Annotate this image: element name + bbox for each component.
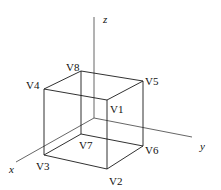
vertex-label-v7: V7 [79, 139, 93, 151]
z-axis-label: z [102, 13, 108, 25]
vertex-label-v4: V4 [26, 79, 40, 91]
cube-diagram: z y x V8 V4 V5 V1 V7 V6 V3 V2 [0, 0, 221, 190]
edge-v6-v2 [107, 146, 143, 169]
edge-v1-v4 [44, 89, 107, 100]
vertex-label-v2: V2 [109, 175, 122, 187]
edge-v4-v8 [44, 71, 81, 89]
edge-v5-v1 [107, 81, 143, 100]
vertex-label-v1: V1 [110, 103, 123, 115]
edge-v8-v5 [81, 71, 143, 81]
edge-v3-v7 [44, 134, 81, 155]
y-axis-label: y [199, 140, 205, 152]
vertex-label-v3: V3 [36, 160, 50, 172]
vertex-label-v8: V8 [66, 61, 80, 73]
vertex-label-v6: V6 [145, 144, 159, 156]
x-axis-label: x [8, 163, 14, 175]
edge-v2-v3 [44, 155, 107, 169]
vertex-label-v5: V5 [145, 75, 159, 87]
